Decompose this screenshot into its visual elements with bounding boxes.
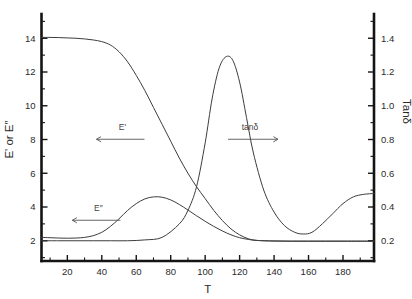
x-tick-label: 80 xyxy=(165,266,176,277)
y2-tick-label: 0.4 xyxy=(381,201,394,212)
annot-tan-delta-label: tanδ xyxy=(242,122,259,132)
chart-background xyxy=(0,0,412,299)
y2-tick-label: 0.8 xyxy=(381,134,394,145)
x-axis-title: T xyxy=(204,283,211,295)
x-tick-label: 140 xyxy=(266,266,282,277)
y-tick-label: 6 xyxy=(30,168,35,179)
y-tick-label: 8 xyxy=(30,134,35,145)
x-tick-label: 40 xyxy=(97,266,108,277)
y2-tick-label: 1.0 xyxy=(381,100,394,111)
y-tick-label: 10 xyxy=(25,100,36,111)
dma-chart-figure: 2040608010012014016018024681012140.20.40… xyxy=(0,0,412,299)
annot-e-prime-label: E' xyxy=(119,122,127,132)
x-tick-label: 120 xyxy=(232,266,248,277)
y2-tick-label: 0.6 xyxy=(381,168,394,179)
y2-axis-title: Tanδ xyxy=(401,99,412,124)
y-tick-label: 2 xyxy=(30,235,35,246)
y2-tick-label: 1.4 xyxy=(381,33,394,44)
chart-canvas: 2040608010012014016018024681012140.20.40… xyxy=(0,0,412,299)
y2-tick-label: 0.2 xyxy=(381,235,394,246)
y-tick-label: 14 xyxy=(25,33,36,44)
x-tick-label: 160 xyxy=(301,266,317,277)
y-tick-label: 12 xyxy=(25,66,36,77)
y2-tick-label: 1.2 xyxy=(381,66,394,77)
x-tick-label: 20 xyxy=(62,266,73,277)
x-tick-label: 60 xyxy=(131,266,142,277)
x-tick-label: 180 xyxy=(335,266,351,277)
y-axis-title: E' or E″ xyxy=(3,120,15,158)
y-tick-label: 4 xyxy=(30,201,35,212)
x-tick-label: 100 xyxy=(197,266,213,277)
annot-e-double-prime-label: E″ xyxy=(94,203,103,213)
